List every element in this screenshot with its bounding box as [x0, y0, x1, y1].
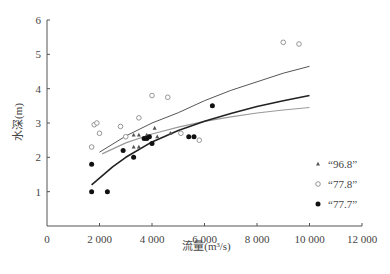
y-tick-label: 3	[36, 117, 42, 129]
data-point	[155, 134, 159, 138]
data-point	[150, 141, 155, 146]
data-point	[297, 42, 302, 47]
legend: “96.8”“77.8”“77.7”	[316, 158, 358, 210]
scatter-chart: 12345602 0004 0006 0008 00010 00012 000流…	[0, 0, 390, 274]
data-point	[131, 155, 136, 160]
data-point	[105, 189, 110, 194]
data-point	[186, 134, 191, 139]
legend-marker-icon	[316, 162, 320, 166]
data-point	[147, 134, 152, 139]
y-tick-label: 1	[36, 186, 42, 198]
data-point	[192, 134, 197, 139]
y-tick-label: 2	[36, 151, 42, 163]
data-point	[89, 162, 94, 167]
legend-label: “96.8”	[328, 158, 357, 170]
data-point	[210, 103, 215, 108]
y-tick-label: 5	[36, 48, 42, 60]
x-tick-label: 4 000	[140, 233, 165, 245]
data-point	[121, 148, 126, 153]
data-point	[132, 145, 136, 149]
data-point	[165, 95, 170, 100]
data-point	[179, 131, 184, 136]
data-point	[95, 121, 100, 126]
x-tick-label: 2 000	[87, 233, 112, 245]
x-tick-label: 12 000	[347, 233, 378, 245]
x-tick-label: 10 000	[294, 233, 325, 245]
data-point	[97, 131, 102, 136]
x-tick-label: 0	[44, 233, 50, 245]
legend-label: “77.8”	[328, 178, 357, 190]
data-point	[281, 40, 286, 45]
data-point	[118, 124, 123, 129]
legend-label: “77.7”	[328, 198, 357, 210]
data-point	[89, 189, 94, 194]
data-point	[137, 145, 141, 149]
x-tick-label: 8 000	[245, 233, 270, 245]
fit-curves	[92, 66, 310, 185]
y-axis-title: 水深(m)	[12, 103, 25, 141]
data-point	[137, 133, 141, 137]
data-point	[197, 138, 202, 143]
legend-marker-icon	[316, 202, 321, 207]
axes: 12345602 0004 0006 0008 00010 00012 000流…	[12, 14, 378, 253]
data-point	[153, 126, 157, 130]
data-point	[150, 93, 155, 98]
y-tick-label: 6	[36, 14, 42, 26]
data-point	[137, 116, 142, 121]
x-axis-title: 流量(m³/s)	[182, 239, 231, 253]
data-point	[89, 145, 94, 150]
data-point	[123, 134, 128, 139]
y-tick-label: 4	[36, 83, 42, 95]
legend-marker-icon	[316, 182, 321, 187]
data-points	[89, 40, 301, 194]
fit-curve-1	[100, 66, 310, 152]
